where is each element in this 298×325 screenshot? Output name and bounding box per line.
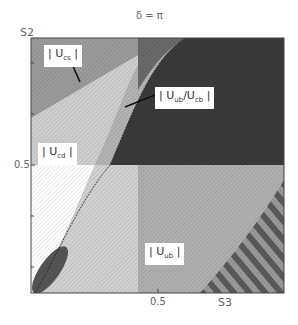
x-axis-label: S3 — [218, 296, 232, 309]
label-ucs: | Ucs | — [44, 45, 82, 67]
y-tick-label: 0.5 — [14, 159, 30, 170]
label-uub: | Uub | — [145, 243, 184, 265]
chart-title: δ = π — [136, 10, 163, 21]
label-ratio: | Uub/Ucb | — [155, 87, 214, 109]
x-tick-label: 0.5 — [150, 296, 166, 307]
y-axis-label: S2 — [20, 26, 34, 39]
label-ucd: | Ucd | — [38, 143, 77, 165]
